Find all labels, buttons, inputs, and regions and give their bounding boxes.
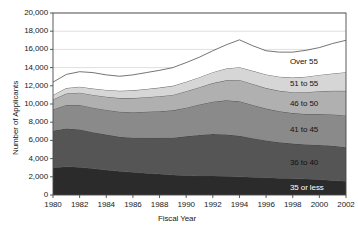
y-tick-label: 8,000 — [4, 118, 48, 126]
x-tick-label: 1986 — [118, 201, 148, 209]
series-label-36-to-40: 36 to 40 — [290, 158, 318, 167]
x-tick-label: 1992 — [198, 201, 228, 209]
applicants-by-age-stacked-area-chart: Number of Applicants Fiscal Year 02,0004… — [0, 0, 358, 233]
series-label-35-or-less: 35 or less — [290, 183, 324, 192]
y-tick-label: 20,000 — [4, 9, 48, 17]
y-tick-label: 18,000 — [4, 27, 48, 35]
y-tick-label: 4,000 — [4, 155, 48, 163]
x-tick-label: 1996 — [251, 201, 281, 209]
y-tick-label: 12,000 — [4, 82, 48, 90]
y-tick-label: 0 — [4, 191, 48, 199]
series-label-41-to-45: 41 to 45 — [290, 125, 318, 134]
series-label-46-to-50: 46 to 50 — [290, 99, 318, 108]
series-label-over-55: Over 55 — [290, 57, 318, 66]
x-tick-label: 1982 — [65, 201, 95, 209]
x-tick-label: 1988 — [145, 201, 175, 209]
series-label-51-to-55: 51 to 55 — [290, 79, 318, 88]
x-tick-label: 1998 — [278, 201, 308, 209]
y-tick-label: 2,000 — [4, 173, 48, 181]
y-tick-label: 16,000 — [4, 45, 48, 53]
y-tick-label: 6,000 — [4, 136, 48, 144]
y-tick-label: 14,000 — [4, 64, 48, 72]
y-tick-label: 10,000 — [4, 100, 48, 108]
x-tick-label: 2002 — [331, 201, 358, 209]
x-tick-label: 1984 — [91, 201, 121, 209]
x-axis-title: Fiscal Year — [0, 214, 356, 223]
x-tick-label: 1990 — [171, 201, 201, 209]
x-tick-label: 2000 — [304, 201, 334, 209]
x-tick-label: 1980 — [38, 201, 68, 209]
plot-area — [0, 0, 358, 233]
x-tick-label: 1994 — [224, 201, 254, 209]
